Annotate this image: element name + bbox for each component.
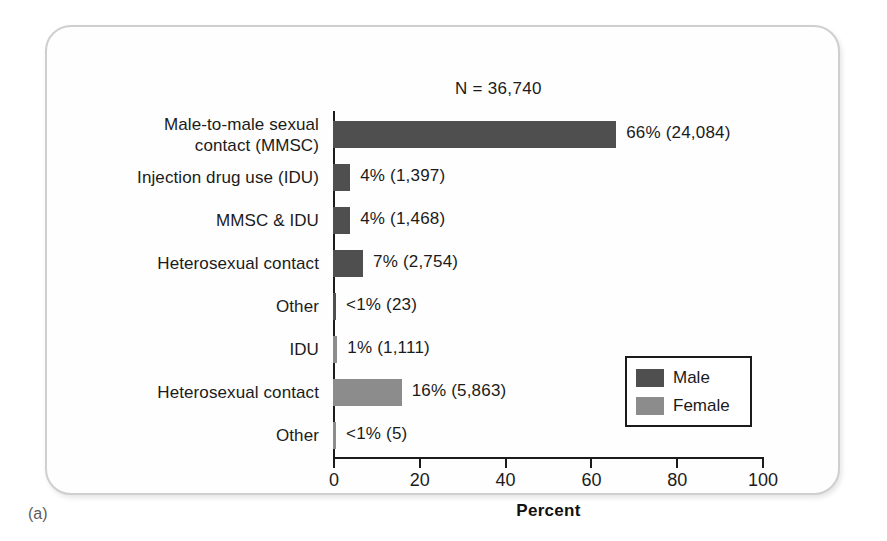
sample-size-label: N = 36,740 — [455, 79, 542, 99]
x-tick-label: 100 — [748, 470, 778, 491]
x-tick — [762, 459, 764, 468]
bar-value-label: <1% (5) — [346, 424, 407, 444]
bar-row[interactable]: <1% (23) — [333, 285, 762, 328]
category-label: Heterosexual contact — [157, 253, 319, 274]
x-tick-label: 20 — [410, 470, 430, 491]
chart-legend: MaleFemale — [625, 356, 752, 427]
bar-row[interactable]: 4% (1,468) — [333, 199, 762, 242]
bar-value-label: 66% (24,084) — [626, 123, 730, 143]
panel-caption: (a) — [28, 505, 48, 523]
legend-item-female[interactable]: Female — [636, 393, 730, 419]
x-tick — [676, 459, 678, 468]
x-tick — [333, 459, 335, 468]
bar-value-label: 16% (5,863) — [412, 381, 507, 401]
category-label: Heterosexual contact — [157, 382, 319, 403]
bar-value-label: 1% (1,111) — [347, 338, 430, 358]
x-tick-label: 80 — [667, 470, 687, 491]
bar-value-label: <1% (23) — [346, 295, 417, 315]
bar-row[interactable]: 66% (24,084) — [333, 113, 762, 156]
category-label: Male-to-male sexual contact (MMSC) — [164, 114, 319, 156]
bar-row[interactable]: 7% (2,754) — [333, 242, 762, 285]
category-label: Injection drug use (IDU) — [137, 167, 319, 188]
bar-rect[interactable] — [333, 293, 336, 320]
bar-value-label: 4% (1,397) — [360, 166, 445, 186]
legend-label: Female — [673, 396, 730, 416]
x-axis-line — [333, 457, 764, 459]
legend-swatch-icon — [636, 369, 664, 387]
bar-rect[interactable] — [333, 336, 337, 363]
bar-rect[interactable] — [333, 379, 402, 406]
x-tick-label: 0 — [329, 470, 339, 491]
bar-value-label: 7% (2,754) — [373, 252, 458, 272]
legend-item-male[interactable]: Male — [636, 365, 710, 391]
x-tick-label: 40 — [496, 470, 516, 491]
category-label: IDU — [289, 339, 319, 360]
x-tick — [590, 459, 592, 468]
bar-rect[interactable] — [333, 250, 363, 277]
x-axis-title: Percent — [333, 501, 764, 521]
bar-rect[interactable] — [333, 422, 336, 449]
x-tick-label: 60 — [581, 470, 601, 491]
bar-value-label: 4% (1,468) — [360, 209, 445, 229]
bar-row[interactable]: 4% (1,397) — [333, 156, 762, 199]
bar-rect[interactable] — [333, 207, 350, 234]
category-label: Other — [276, 296, 319, 317]
legend-swatch-icon — [636, 397, 664, 415]
x-tick — [419, 459, 421, 468]
figure-card: N = 36,740 Male-to-male sexual contact (… — [45, 25, 840, 495]
legend-label: Male — [673, 368, 710, 388]
category-axis-labels: Male-to-male sexual contact (MMSC)Inject… — [87, 113, 319, 458]
bar-rect[interactable] — [333, 164, 350, 191]
bar-rect[interactable] — [333, 121, 616, 148]
category-label: Other — [276, 425, 319, 446]
category-label: MMSC & IDU — [216, 210, 319, 231]
x-tick — [505, 459, 507, 468]
